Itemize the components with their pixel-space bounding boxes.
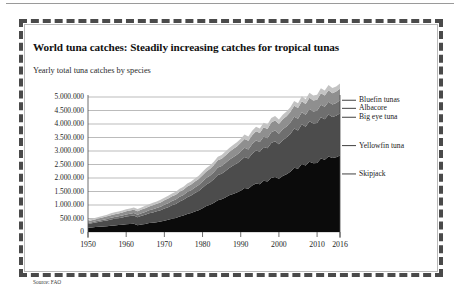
figure-page: World tuna catches: Steadily increasing … bbox=[0, 0, 460, 303]
chart-legend: Bluefin tunasAlbacoreBig eye tunaYellowf… bbox=[0, 0, 460, 303]
legend-label-big-eye-tuna: Big eye tuna bbox=[359, 113, 397, 121]
source-caption: Source: FAO bbox=[33, 279, 61, 285]
legend-label-yellowfin-tuna: Yellowfin tuna bbox=[359, 142, 404, 150]
legend-label-albacore: Albacore bbox=[359, 104, 387, 112]
legend-label-skipjack: Skipjack bbox=[359, 170, 386, 178]
